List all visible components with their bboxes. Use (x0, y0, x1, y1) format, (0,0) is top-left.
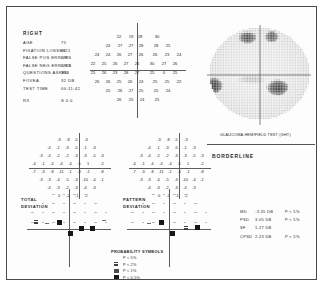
index-value-psd: 3.05 DB (255, 217, 272, 222)
total-deviation-plot-symbol-p4 (90, 226, 95, 231)
pattern-deviation-plot-lattice-dot (184, 231, 187, 234)
header-value-test-time: 00:11:42 (61, 86, 80, 91)
total-deviation-plot-lattice-dot (52, 259, 55, 262)
pattern-deviation-plot-lattice-dot (205, 231, 208, 234)
threshold-value: 27 (127, 88, 135, 93)
threshold-value: 26 (151, 52, 159, 57)
total-deviation-value: -1 (97, 177, 107, 182)
pattern-deviation-plot-lattice-dot (184, 240, 187, 243)
threshold-value: 25 (153, 97, 161, 102)
total-deviation-plot-lattice-dot (31, 249, 34, 252)
total-deviation-plot-symbol-p4 (79, 226, 84, 231)
pattern-deviation-plot-lattice-dot (163, 202, 166, 205)
threshold-value: 28 (122, 70, 130, 75)
index-value-cpsd: 2.23 DB (255, 234, 272, 239)
pattern-deviation-plot-lattice-dot (152, 240, 155, 243)
threshold-value: 28 (137, 43, 145, 48)
threshold-value: 22 (89, 61, 97, 66)
threshold-value: 25 (127, 97, 135, 102)
threshold-value: 30 (153, 34, 161, 39)
total-deviation-plot-axis-vertical (69, 189, 70, 267)
total-deviation-plot-lattice-dot (73, 240, 76, 243)
ght-result: BORDERLINE (212, 153, 254, 159)
total-deviation-plot-symbol-p1 (102, 220, 106, 224)
threshold-value: 25 (100, 61, 108, 66)
pattern-deviation-plot-lattice-dot (184, 249, 187, 252)
total-deviation-plot-symbol-p4 (68, 231, 73, 236)
pattern-deviation-plot-lattice-dot (131, 240, 134, 243)
pattern-deviation-plot-lattice-dot (142, 259, 145, 262)
threshold-value: 22 (115, 34, 123, 39)
greyscale-plot (205, 23, 313, 127)
header-value-false-pos-errors: 0/9 (61, 55, 68, 60)
legend-symbol-p2 (114, 262, 118, 266)
pattern-deviation-plot-symbol-p1 (147, 223, 151, 227)
threshold-value: 26 (133, 61, 141, 66)
threshold-value: 27 (116, 43, 124, 48)
threshold-value: 26 (116, 88, 124, 93)
pattern-deviation-value: -2 (197, 161, 207, 166)
total-deviation-label-1: TOTAL (21, 197, 37, 202)
legend-label: P < 1% (123, 269, 136, 273)
total-deviation-plot-lattice-dot (31, 240, 34, 243)
total-deviation-value: -3 (81, 137, 91, 142)
total-deviation-plot-lattice-dot (52, 221, 55, 224)
total-deviation-plot-lattice-dot (105, 249, 108, 252)
total-deviation-plot-lattice-dot (105, 212, 108, 215)
header-label-fovea: FOVEA (23, 78, 39, 83)
pattern-deviation-plot-symbol-p4 (170, 231, 175, 236)
probability-symbols-title: PROBABILITY SYMBOLS (111, 249, 163, 254)
pattern-deviation-plot-lattice-dot (152, 193, 155, 196)
pattern-deviation-value: -1 (183, 169, 193, 174)
header-label-fixation-losses: FIXATION LOSSES (23, 48, 66, 53)
total-deviation-plot-lattice-dot (31, 231, 34, 234)
total-deviation-plot-lattice-dot (63, 202, 66, 205)
pattern-deviation-value: -3 (189, 185, 199, 190)
total-deviation-plot-lattice-dot (52, 202, 55, 205)
threshold-value: 27 (127, 43, 135, 48)
legend-symbol-p3 (114, 269, 119, 274)
threshold-value: 26 (104, 79, 112, 84)
total-deviation-plot-lattice-dot (94, 212, 97, 215)
report-page: RIGHTAGE75FIXATION LOSSES4/21FALSE POS E… (0, 0, 321, 284)
total-deviation-value: -5 (71, 137, 81, 142)
total-deviation-plot-symbol-p2 (34, 220, 38, 224)
threshold-value: 25 (89, 70, 97, 75)
total-deviation-plot-lattice-dot (42, 259, 45, 262)
pattern-deviation-plot-axis-vertical (169, 189, 170, 267)
threshold-value: 24 (138, 97, 146, 102)
pattern-deviation-plot-lattice-dot (205, 221, 208, 224)
total-deviation-plot-lattice-dot (42, 231, 45, 234)
threshold-value: 28 (152, 43, 160, 48)
threshold-value: 30 (148, 61, 156, 66)
total-deviation-plot-lattice-dot (73, 212, 76, 215)
pattern-deviation-plot-lattice-dot (142, 221, 145, 224)
total-deviation-plot-lattice-dot (42, 212, 45, 215)
total-deviation-plot-lattice-dot (94, 221, 97, 224)
total-deviation-plot-lattice-dot (52, 240, 55, 243)
threshold-value: 26 (171, 61, 179, 66)
legend-symbol-p1 (114, 256, 118, 260)
total-deviation-value: -3 (89, 145, 99, 150)
index-name-md: MD (240, 209, 247, 214)
pattern-deviation-plot-lattice-dot (205, 240, 208, 243)
pattern-deviation-plot-lattice-dot (152, 202, 155, 205)
threshold-value: 26 (100, 70, 108, 75)
threshold-value: 23 (163, 52, 171, 57)
threshold-value: 26 (115, 97, 123, 102)
threshold-value: 27 (122, 61, 130, 66)
eye-label: RIGHT (23, 31, 43, 36)
pattern-deviation-label-1: PATTERN (123, 197, 146, 202)
index-prob-md: P < 5% (285, 209, 300, 214)
pattern-deviation-value: -1 (197, 177, 207, 182)
total-deviation-plot-lattice-dot (84, 221, 87, 224)
total-deviation-value: -8 (97, 169, 107, 174)
total-deviation-plot-lattice-dot (94, 259, 97, 262)
threshold-value: 24 (93, 52, 101, 57)
header-label-age: AGE (23, 40, 33, 45)
total-deviation-value: -1 (83, 169, 93, 174)
total-deviation-plot-lattice-dot (52, 249, 55, 252)
total-deviation-plot-lattice-dot (73, 202, 76, 205)
pattern-deviation-plot-lattice-dot (131, 231, 134, 234)
perimetry-printout: RIGHTAGE75FIXATION LOSSES4/21FALSE POS E… (6, 6, 317, 280)
